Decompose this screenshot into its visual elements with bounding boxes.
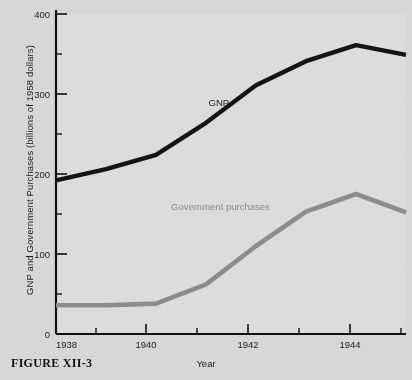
series-line-gnp bbox=[56, 45, 406, 180]
figure-caption: FIGURE XII-3 bbox=[11, 356, 92, 371]
figure-root: 400 300 200 100 0 1938 1940 1942 1944 bbox=[0, 0, 412, 380]
y-axis-ticks bbox=[56, 14, 67, 294]
x-axis-ticks bbox=[56, 324, 401, 334]
y-tick-label-0: 0 bbox=[45, 329, 50, 340]
x-tick-label-1938: 1938 bbox=[56, 339, 77, 350]
series-label-gnp: GNP bbox=[209, 97, 230, 108]
axes bbox=[56, 10, 406, 334]
y-axis-title: GNP and Government Purchases (billions o… bbox=[24, 45, 35, 295]
series-label-government-purchases: Government purchases bbox=[171, 201, 270, 212]
x-axis-tick-labels: 1938 1940 1942 1944 bbox=[56, 339, 361, 350]
x-tick-label-1944: 1944 bbox=[339, 339, 360, 350]
chart-svg: 400 300 200 100 0 1938 1940 1942 1944 bbox=[0, 0, 412, 380]
y-axis-title-wrapper: GNP and Government Purchases (billions o… bbox=[19, 5, 39, 335]
x-tick-label-1940: 1940 bbox=[135, 339, 156, 350]
data-series-group bbox=[56, 45, 406, 305]
x-tick-label-1942: 1942 bbox=[237, 339, 258, 350]
